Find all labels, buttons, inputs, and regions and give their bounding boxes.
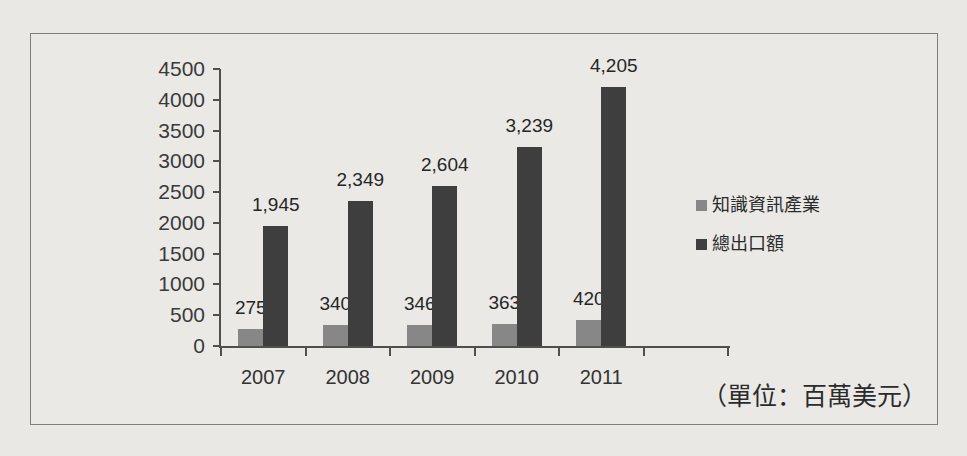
y-tick-mark — [213, 130, 220, 132]
bar — [517, 147, 542, 346]
x-axis-label: 2009 — [390, 366, 475, 388]
legend-label: 總出口額 — [712, 233, 784, 255]
y-tick-label: 1000 — [123, 271, 205, 297]
legend: 知識資訊產業總出口額 — [696, 194, 820, 272]
x-tick-mark — [389, 348, 391, 356]
legend-swatch-icon — [696, 239, 707, 250]
x-tick-mark — [643, 348, 645, 356]
data-label: 3,239 — [484, 113, 574, 139]
y-tick-label: 4000 — [123, 87, 205, 113]
y-tick-mark — [213, 283, 220, 285]
x-axis-label: 2011 — [559, 366, 644, 388]
data-label: 1,945 — [231, 192, 321, 218]
y-tick-label: 3500 — [123, 118, 205, 144]
x-axis-label: 2007 — [221, 366, 306, 388]
legend-swatch-icon — [696, 200, 707, 211]
x-tick-mark — [305, 348, 307, 356]
y-tick-mark — [213, 191, 220, 193]
x-tick-mark — [220, 348, 222, 356]
bar — [492, 324, 517, 346]
data-label: 2,604 — [400, 152, 490, 178]
x-tick-mark — [558, 348, 560, 356]
y-tick-label: 4500 — [123, 56, 205, 82]
bar — [263, 226, 288, 346]
chart-frame: 知識資訊產業總出口額 （單位：百萬美元） 0500100015002000250… — [30, 33, 938, 425]
x-axis-label: 2010 — [475, 366, 560, 388]
bar — [601, 87, 626, 346]
bar — [323, 325, 348, 346]
x-tick-mark — [474, 348, 476, 356]
y-tick-label: 0 — [123, 333, 205, 359]
unit-note: （單位：百萬美元） — [702, 381, 927, 411]
bar — [238, 329, 263, 346]
bar — [348, 201, 373, 346]
bar — [576, 320, 601, 346]
y-tick-label: 500 — [123, 302, 205, 328]
data-label: 4,205 — [569, 53, 659, 79]
y-tick-mark — [213, 222, 220, 224]
bar — [407, 325, 432, 346]
y-tick-label: 3000 — [123, 148, 205, 174]
y-tick-label: 2000 — [123, 210, 205, 236]
y-tick-mark — [213, 99, 220, 101]
bar — [432, 186, 457, 346]
y-tick-mark — [213, 253, 220, 255]
legend-item: 知識資訊產業 — [696, 194, 820, 216]
y-tick-mark — [213, 68, 220, 70]
x-axis-label: 2008 — [306, 366, 391, 388]
y-tick-label: 2500 — [123, 179, 205, 205]
legend-item: 總出口額 — [696, 233, 820, 255]
data-label: 2,349 — [315, 167, 405, 193]
legend-label: 知識資訊產業 — [712, 194, 820, 216]
y-tick-label: 1500 — [123, 241, 205, 267]
y-tick-mark — [213, 160, 220, 162]
x-tick-mark — [727, 348, 729, 356]
y-tick-mark — [213, 345, 220, 347]
